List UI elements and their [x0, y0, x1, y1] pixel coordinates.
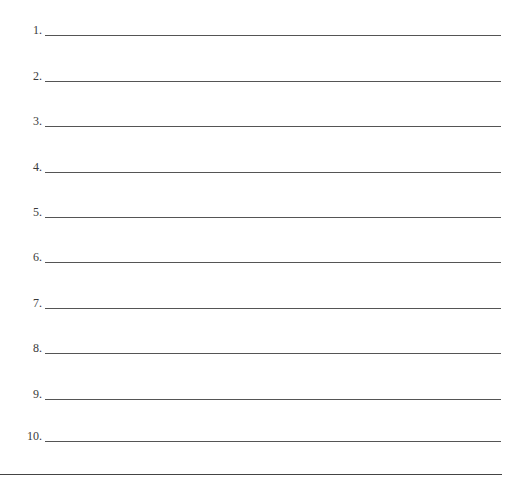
- blank-line[interactable]: [45, 441, 501, 442]
- bottom-divider: [0, 474, 502, 475]
- blank-line[interactable]: [45, 35, 501, 36]
- blank-line[interactable]: [45, 217, 501, 218]
- blank-line[interactable]: [45, 399, 501, 400]
- list-item: 10.: [0, 424, 524, 444]
- blank-line[interactable]: [45, 81, 501, 82]
- blank-line[interactable]: [45, 353, 501, 354]
- list-item: 1.: [0, 18, 524, 38]
- item-number: 3.: [33, 115, 42, 127]
- list-item: 8.: [0, 336, 524, 356]
- item-number: 10.: [27, 430, 42, 442]
- list-item: 2.: [0, 64, 524, 84]
- item-number: 9.: [33, 388, 42, 400]
- list-item: 3.: [0, 109, 524, 129]
- item-number: 4.: [33, 161, 42, 173]
- item-number: 6.: [33, 251, 42, 263]
- list-item: 5.: [0, 200, 524, 220]
- blank-line[interactable]: [45, 262, 501, 263]
- item-number: 2.: [33, 70, 42, 82]
- item-number: 1.: [33, 24, 42, 36]
- blank-line[interactable]: [45, 172, 501, 173]
- item-number: 5.: [33, 206, 42, 218]
- item-number: 7.: [33, 297, 42, 309]
- list-item: 6.: [0, 245, 524, 265]
- list-item: 7.: [0, 291, 524, 311]
- blank-line[interactable]: [45, 308, 501, 309]
- item-number: 8.: [33, 342, 42, 354]
- list-item: 4.: [0, 155, 524, 175]
- blank-line[interactable]: [45, 126, 501, 127]
- list-item: 9.: [0, 382, 524, 402]
